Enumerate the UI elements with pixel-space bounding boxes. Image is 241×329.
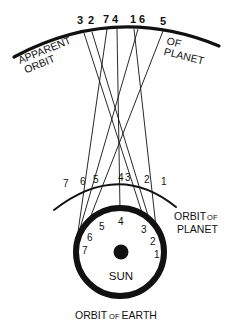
earth-position-label: 6 (87, 232, 93, 243)
sight-line-2 (92, 32, 153, 232)
apparent-label: 4 (112, 13, 119, 25)
apparent-label: 3 (77, 14, 83, 26)
sight-line-6 (79, 29, 138, 232)
earth-position-label: 3 (141, 224, 147, 235)
earth-position-label: 1 (154, 249, 160, 260)
retrograde-motion-diagram: 3 2 7 4 1 6 5 7 6 5 4 3 2 1 7 6 5 4 3 2 … (0, 0, 241, 329)
planet-position-label: 3 (125, 172, 131, 183)
earth-position-label: 4 (118, 216, 124, 227)
apparent-label: 2 (88, 14, 94, 26)
svg-text:PLANET: PLANET (177, 223, 218, 235)
apparent-label: 1 (130, 13, 136, 25)
planet-position-label: 2 (144, 174, 150, 185)
apparent-label: 7 (103, 13, 109, 25)
planet-position-label: 4 (118, 172, 124, 183)
planet-position-label: 5 (93, 174, 99, 185)
apparent-label: 5 (160, 15, 166, 27)
orbit-of-planet-label: ORBITOF PLANET (174, 210, 218, 235)
svg-text:ORBITOFEARTH: ORBITOFEARTH (75, 309, 157, 321)
sun-icon (114, 245, 129, 260)
apparent-label: 6 (139, 13, 145, 25)
earth-position-label: 7 (82, 245, 88, 256)
apparent-position-labels: 3 2 7 4 1 6 5 (77, 13, 166, 27)
planet-position-label: 7 (63, 178, 69, 189)
planet-position-label: 6 (80, 176, 86, 187)
earth-position-label: 2 (150, 236, 156, 247)
sun-label: SUN (109, 270, 133, 282)
planet-position-label: 1 (161, 176, 167, 187)
orbit-of-earth-label: ORBITOFEARTH (75, 309, 157, 321)
apparent-orbit-label: APPARENT ORBIT (16, 34, 77, 76)
svg-text:PLANET: PLANET (163, 45, 206, 67)
earth-position-label: 5 (99, 221, 105, 232)
svg-text:ORBITOF: ORBITOF (174, 210, 218, 222)
